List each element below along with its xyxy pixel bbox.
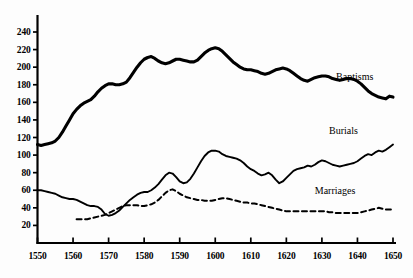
y-tick-label-100: 100: [0, 150, 31, 160]
series-label-burials: Burials: [329, 125, 358, 136]
y-tick-label-120: 120: [0, 133, 31, 143]
x-tick-label-1550: 1550: [28, 251, 46, 261]
x-tick-label-1610: 1610: [242, 251, 260, 261]
x-tick-label-1580: 1580: [135, 251, 153, 261]
x-tick-label-1600: 1600: [206, 251, 224, 261]
y-tick-label-60: 60: [0, 185, 31, 195]
x-tick-label-1640: 1640: [348, 251, 366, 261]
x-tick-label-1650: 1650: [384, 251, 402, 261]
x-tick-label-1620: 1620: [277, 251, 295, 261]
x-tick-label-1560: 1560: [64, 251, 82, 261]
y-tick-label-80: 80: [0, 168, 31, 178]
y-tick-label-240: 240: [0, 27, 31, 37]
series-label-marriages: Marriages: [315, 185, 356, 196]
series-label-baptisms: Baptisms: [336, 70, 373, 81]
chart-plot-area: [0, 0, 413, 278]
y-tick-label-220: 220: [0, 45, 31, 55]
chart-container: 24022020018016014012010080604020 1550156…: [0, 0, 413, 278]
y-tick-label-140: 140: [0, 115, 31, 125]
x-tick-label-1630: 1630: [313, 251, 331, 261]
series-line-burials: [38, 145, 394, 216]
x-tick-label-1570: 1570: [99, 251, 117, 261]
y-tick-label-20: 20: [0, 220, 31, 230]
y-tick-label-160: 160: [0, 97, 31, 107]
x-tick-label-1590: 1590: [171, 251, 189, 261]
y-tick-label-180: 180: [0, 80, 31, 90]
y-tick-label-200: 200: [0, 62, 31, 72]
y-tick-label-40: 40: [0, 203, 31, 213]
